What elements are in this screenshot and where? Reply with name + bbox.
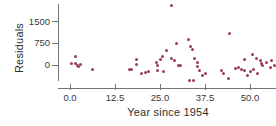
data-point: [270, 59, 273, 62]
data-point: [187, 38, 190, 41]
data-point: [243, 69, 246, 72]
data-point: [240, 68, 243, 71]
data-point: [201, 74, 204, 77]
data-point: [243, 58, 246, 61]
data-point: [193, 57, 196, 60]
data-point: [156, 64, 159, 67]
x-axis-tick-label: 25.0: [145, 93, 175, 103]
y-axis-tick: [52, 43, 58, 44]
data-point: [159, 58, 162, 61]
x-axis-tick: [115, 84, 116, 90]
data-point: [156, 69, 159, 72]
data-point: [246, 74, 249, 77]
data-point: [252, 68, 255, 71]
data-point: [192, 79, 195, 82]
x-axis-tick-label: 0.0: [55, 93, 85, 103]
data-point: [140, 72, 143, 75]
x-axis-tick: [70, 84, 71, 90]
data-point: [191, 48, 194, 51]
x-axis-tick-label: 12.5: [100, 93, 130, 103]
x-axis-title: Year since 1954: [108, 106, 228, 118]
data-point: [249, 70, 252, 73]
x-axis-tick: [205, 84, 206, 90]
data-point: [77, 65, 80, 68]
residuals-scatter-plot: Residuals Year since 1954 075015000.012.…: [0, 0, 276, 126]
data-point: [175, 42, 178, 45]
x-axis-tick-label: 37.5: [190, 93, 220, 103]
data-point: [265, 61, 268, 64]
data-point: [179, 64, 182, 67]
data-point: [256, 72, 259, 75]
y-axis-tick-label: 750: [10, 38, 50, 48]
data-point: [198, 69, 201, 72]
data-point: [204, 72, 207, 75]
data-point: [222, 72, 225, 75]
data-point: [130, 68, 133, 71]
data-point: [162, 70, 165, 73]
data-point: [269, 66, 272, 69]
data-point: [165, 49, 168, 52]
data-point: [135, 63, 138, 66]
y-axis-tick-label: 0: [10, 60, 50, 70]
data-point: [70, 62, 73, 65]
y-axis-tick: [52, 21, 58, 22]
data-point: [255, 57, 258, 60]
y-axis-tick: [52, 65, 58, 66]
data-point: [188, 79, 191, 82]
data-point: [227, 77, 230, 80]
x-axis-tick: [160, 84, 161, 90]
data-point: [135, 58, 138, 61]
y-axis-tick-label: 1500: [10, 17, 50, 27]
data-point: [147, 70, 150, 73]
data-point: [261, 64, 264, 67]
data-point: [161, 55, 164, 58]
data-point: [91, 68, 94, 71]
data-point: [228, 32, 231, 35]
x-axis-tick: [250, 84, 251, 90]
data-point: [173, 59, 176, 62]
data-point: [251, 53, 254, 56]
data-point: [170, 4, 173, 7]
data-point: [74, 55, 77, 58]
x-axis-tick-label: 50.0: [235, 93, 265, 103]
data-point: [196, 65, 199, 68]
data-point: [79, 63, 82, 66]
data-point: [273, 64, 276, 67]
